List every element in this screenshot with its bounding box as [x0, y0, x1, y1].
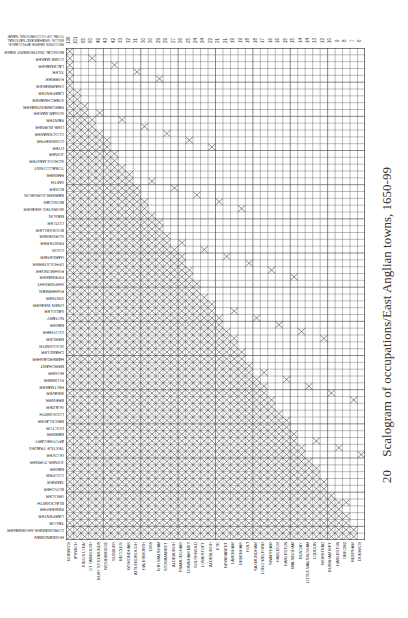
town-label: WALSINGHAM: [290, 542, 297, 604]
town-label: LONG MELFORD: [260, 542, 267, 604]
occupation-label: FARMER: [4, 171, 64, 178]
occupation-label: PEWTERER: [4, 239, 64, 246]
occupation-label: LOCKSMITH: [4, 410, 64, 417]
town-label: DISS: [148, 542, 155, 604]
occupation-label: WORSTED WEAVER: [4, 205, 64, 212]
town-count: 33: [118, 34, 125, 47]
town-count: 6: [357, 34, 364, 47]
occupation-label: TANNER: [4, 478, 64, 485]
header-note: RECORDS WHERE APPLICABLE: WILLIS, GRAHAM…: [4, 32, 64, 46]
scalogram-figure: RECORDS WHERE APPLICABLE: WILLIS, GRAHAM…: [0, 0, 408, 618]
occupation-label: CLOTHIER: [4, 328, 64, 335]
town-count: 16: [275, 34, 282, 47]
town-label: LODDON: [312, 542, 319, 604]
occupation-label: TEXTILE TRADES: [4, 444, 64, 451]
occupation-label: GARDENER: [4, 253, 64, 260]
occupation-label: LIME-BURNER: [4, 123, 64, 130]
occupation-label: UPHOLSTERER: [4, 260, 64, 267]
town-count: 29: [163, 34, 170, 47]
town-label: LAVENHAM: [230, 542, 237, 604]
town-label: ALDEBURGH: [171, 542, 178, 604]
town-count: 13: [312, 34, 319, 47]
town-label: DUNWICH: [357, 542, 364, 604]
town-count: 15: [290, 34, 297, 47]
town-label: ORFORD: [342, 542, 349, 604]
town-label: EYE: [215, 542, 222, 604]
occupation-label: SHIPWRIGHT: [4, 280, 64, 287]
occupation-label: SMITH: [4, 178, 64, 185]
town-count: 18: [245, 34, 252, 47]
occupation-label: HOSIER: [4, 369, 64, 376]
occupation-label: STARCHMAKER: [4, 96, 64, 103]
town-count: 60: [88, 34, 95, 47]
town-label: SWAFFHAM: [268, 542, 275, 604]
town-count: 101: [73, 34, 80, 47]
town-label: BECCLES: [118, 542, 125, 604]
town-count: 30: [148, 34, 155, 47]
town-label: WOODBRIDGE: [103, 542, 110, 604]
town-label: STOWMARKET: [163, 542, 170, 604]
occupation-label: BUTCHER: [4, 485, 64, 492]
town-count: 16: [268, 34, 275, 47]
town-label: IPSWICH: [73, 542, 80, 604]
town-label: DOWNHAM MKT: [186, 542, 193, 604]
occupation-label: PLUMBER: [4, 376, 64, 383]
occupation-label: HUSBANDMAN: [4, 533, 64, 540]
town-count: 15: [283, 34, 290, 47]
town-label: HARLESTON: [283, 542, 290, 604]
occupation-label: MUSICAL INSTRUMENT MAKER: [4, 48, 64, 55]
occupation-label: GLAZIER: [4, 403, 64, 410]
occupation-label: FISHERMAN: [4, 287, 64, 294]
occupation-label: BRICKLAYER: [4, 417, 64, 424]
town-count: 27: [171, 34, 178, 47]
town-label: BURNHAM MKT: [327, 542, 334, 604]
occupation-label: VINTNER: [4, 294, 64, 301]
town-count: 10: [327, 34, 334, 47]
town-label: LOWESTOFT: [200, 542, 207, 604]
town-label: BUNGAY: [298, 542, 305, 604]
figure-number: 20: [379, 470, 394, 483]
town-label: ATTLEBOROUGH: [133, 542, 140, 604]
occupation-label: GROCER: [4, 492, 64, 499]
occupation-label: JOINER-TURNER: [4, 458, 64, 465]
occupation-label: TAILOR: [4, 519, 64, 526]
town-count: 29: [156, 34, 163, 47]
town-label: NTH WALSHAM: [156, 542, 163, 604]
scalogram-grid: [66, 48, 365, 540]
occupation-label: COMB MAKER: [4, 55, 64, 62]
town-count-row: 1361016560494342333231303029292726252424…: [66, 34, 365, 47]
town-labels: NORWICHIPSWICHKING'S LYNNGT YARMOUTHBURY…: [66, 542, 365, 604]
town-count: 21: [215, 34, 222, 47]
occupation-label: MERCER: [4, 335, 64, 342]
town-count: 24: [200, 34, 207, 47]
town-count: 25: [186, 34, 193, 47]
town-label: HOLT: [245, 542, 252, 604]
occupation-label: MASON: [4, 212, 64, 219]
occupation-label: MERCHANT: [4, 362, 64, 369]
town-count: 19: [230, 34, 237, 47]
occupation-label: CHAIRMAKER: [4, 82, 64, 89]
town-count: 26: [178, 34, 185, 47]
town-count: 43: [103, 34, 110, 47]
occupation-label: BAKER: [4, 321, 64, 328]
occupation-label: TOBACCONIST: [4, 164, 64, 171]
town-label: GT YARMOUTH: [88, 542, 95, 604]
occupation-label: CORDWAINER-SHOEMAKER: [4, 526, 64, 533]
occupation-label: COOK: [4, 246, 64, 253]
occupation-label: CARPENTER: [4, 89, 64, 96]
town-count: 31: [133, 34, 140, 47]
town-count: 14: [298, 34, 305, 47]
town-label: HADLEIGH: [275, 542, 282, 604]
occupation-label: APOTHECARY: [4, 437, 64, 444]
occupation-label: COWKEEPER: [4, 137, 64, 144]
figure-caption: 20 Scalogram of occupations/East Anglian…: [372, 200, 402, 450]
occupation-label: GLOVER: [4, 451, 64, 458]
town-count: 8: [342, 34, 349, 47]
town-label: FRAMLINGHAM: [178, 542, 185, 604]
caption-text: Scalogram of occupations/East Anglian to…: [379, 167, 394, 457]
occupation-label: CUTLER: [4, 219, 64, 226]
town-count: 17: [260, 34, 267, 47]
occupation-label: CLOCKMAKER: [4, 130, 64, 137]
occupation-labels: MUSICAL INSTRUMENT MAKERCOMB MAKERLACEMA…: [4, 48, 64, 540]
